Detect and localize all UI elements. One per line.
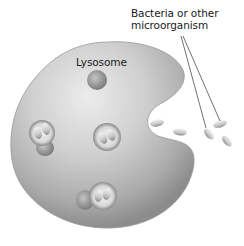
bacterium-free-5 [220, 134, 234, 148]
bacterium-free-2 [173, 128, 188, 136]
leader-line-2 [183, 36, 220, 121]
phagocytosis-diagram: Lysosome Bacteria or other microorganism [0, 0, 244, 246]
lysosome [87, 70, 107, 90]
bacteria-label: Bacteria or other microorganism [131, 7, 218, 31]
phagosome-2 [93, 123, 121, 151]
bacterium-free-1 [149, 118, 164, 127]
bacteria-label-line1: Bacteria or other [131, 7, 218, 19]
leader-line-1 [181, 36, 206, 128]
lysosome-label: Lysosome [76, 56, 127, 68]
bacteria-label-line2: microorganism [131, 19, 218, 31]
bacterium-free-3 [202, 127, 216, 141]
cell-illustration [0, 0, 244, 246]
